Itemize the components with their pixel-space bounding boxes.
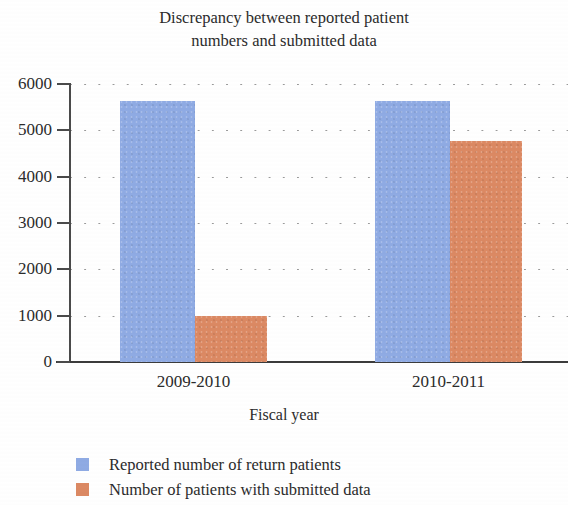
y-tick-mark [57,129,70,131]
y-tick-label: 5000 [18,121,52,138]
y-tick-mark [57,268,70,270]
y-tick-label: 2000 [18,260,52,277]
y-tick-mark [57,315,70,317]
x-axis-title: Fiscal year [0,406,568,424]
y-tick-mark [57,222,70,224]
chart-title-line-2: numbers and submitted data [0,29,568,52]
legend: Reported number of return patientsNumber… [76,452,371,502]
legend-label: Reported number of return patients [109,455,341,474]
y-tick-label: 6000 [18,75,52,92]
legend-label: Number of patients with submitted data [109,480,371,499]
y-tick-mark [57,361,70,363]
legend-item: Number of patients with submitted data [76,477,371,502]
gridline [70,84,568,85]
bar-2009-2010-series-2 [195,316,267,362]
chart-title: Discrepancy between reported patient num… [0,6,568,52]
y-tick-label: 3000 [18,214,52,231]
bar-2009-2010-series-1 [120,101,195,362]
y-tick-label: 1000 [18,307,52,324]
y-tick-mark [57,176,70,178]
legend-swatch-icon [76,458,89,471]
y-tick-mark [57,83,70,85]
bar-2010-2011-series-2 [450,141,522,362]
x-category-label: 2009-2010 [120,372,267,392]
legend-swatch-icon [76,483,89,496]
legend-item: Reported number of return patients [76,452,371,477]
x-category-label: 2010-2011 [375,372,522,392]
chart-title-line-1: Discrepancy between reported patient [0,6,568,29]
bar-2010-2011-series-1 [375,101,450,362]
y-tick-label: 0 [44,353,53,370]
y-tick-label: 4000 [18,168,52,185]
